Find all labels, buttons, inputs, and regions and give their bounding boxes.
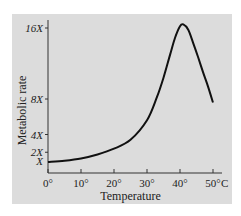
x-tick-label: 30° bbox=[139, 177, 154, 189]
x-tick-label: 50° bbox=[205, 177, 220, 189]
chart-panel bbox=[12, 14, 232, 204]
y-tick-label: 16X bbox=[25, 22, 44, 34]
y-tick-label: 2X bbox=[31, 146, 45, 158]
x-axis-label: Temperature bbox=[100, 189, 160, 203]
y-tick-label: 8X bbox=[31, 93, 45, 105]
x-tick-label: 10° bbox=[73, 177, 88, 189]
y-axis-label: Metabolic rate bbox=[15, 76, 29, 146]
metabolic-rate-chart: 0°10°20°30°40°50°X2X4X8X16X C Temperatur… bbox=[0, 0, 241, 216]
x-tick-label: 20° bbox=[106, 177, 121, 189]
x-tick-label: 0° bbox=[43, 177, 53, 189]
y-tick-label: 4X bbox=[31, 129, 45, 141]
x-tick-label: 40° bbox=[172, 177, 187, 189]
x-axis-unit: C bbox=[221, 177, 228, 189]
